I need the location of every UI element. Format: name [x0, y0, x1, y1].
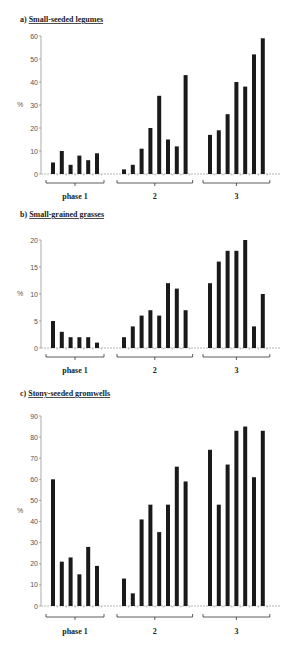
- bar: [157, 96, 161, 174]
- bar: [157, 316, 161, 348]
- y-tick-label: 10: [30, 148, 38, 155]
- y-tick-label: 15: [30, 264, 38, 271]
- bar: [261, 38, 265, 174]
- bar: [208, 450, 212, 606]
- chart-panel-c: c) Stony-seeded gromwells010203040506070…: [17, 389, 280, 636]
- bar: [60, 151, 64, 174]
- chart-title-prefix: b): [20, 210, 29, 219]
- bar: [140, 519, 144, 606]
- y-tick-label: 40: [30, 518, 38, 525]
- bar: [166, 283, 170, 348]
- bar: [122, 337, 126, 348]
- chart-title-text: Stony-seeded gromwells: [28, 389, 110, 398]
- y-tick-label: 10: [30, 291, 38, 298]
- group-brace: [203, 354, 270, 360]
- group-label: 2: [153, 192, 157, 201]
- group-brace: [117, 180, 193, 186]
- bar: [69, 337, 73, 348]
- bar: [184, 75, 188, 174]
- bar: [60, 332, 64, 348]
- bar: [243, 427, 247, 606]
- bar: [208, 135, 212, 174]
- y-tick-label: 5: [34, 318, 38, 325]
- group-brace: [46, 614, 104, 620]
- chart-title-text: Small-seeded legumes: [29, 15, 103, 24]
- bar: [217, 262, 221, 348]
- bar: [217, 505, 221, 606]
- group-label: phase 1: [62, 627, 88, 636]
- y-tick-label: 20: [30, 237, 38, 244]
- group-brace: [46, 354, 104, 360]
- y-tick-label: 50: [30, 497, 38, 504]
- bar: [166, 140, 170, 175]
- bar: [252, 326, 256, 348]
- group-brace: [203, 180, 270, 186]
- y-tick-label: 80: [30, 434, 38, 441]
- group-label: 3: [234, 192, 238, 201]
- y-tick-label: 10: [30, 581, 38, 588]
- bar: [243, 240, 247, 348]
- chart-title-text: Small-grained grasses: [29, 210, 104, 219]
- y-tick-label: 0: [34, 345, 38, 352]
- y-tick-label: 60: [30, 476, 38, 483]
- bar: [131, 165, 135, 174]
- y-tick-label: 20: [30, 125, 38, 132]
- bar: [86, 160, 90, 174]
- bar: [131, 326, 135, 348]
- y-tick-label: 0: [34, 603, 38, 610]
- bar: [175, 146, 179, 174]
- bar: [252, 54, 256, 174]
- chart-title-prefix: c): [20, 389, 28, 398]
- y-tick-label: 20: [30, 560, 38, 567]
- y-tick-label: 60: [30, 33, 38, 40]
- bar: [69, 165, 73, 174]
- bar: [77, 574, 81, 606]
- bar: [234, 251, 238, 348]
- y-tick-label: 70: [30, 455, 38, 462]
- y-tick-label: 30: [30, 102, 38, 109]
- y-axis-label: %: [17, 507, 23, 514]
- bar: [175, 289, 179, 348]
- bar: [226, 114, 230, 174]
- bar: [69, 557, 73, 606]
- group-brace: [117, 614, 193, 620]
- group-label: 3: [234, 627, 238, 636]
- bar: [226, 465, 230, 606]
- bar: [140, 316, 144, 348]
- group-label: 3: [234, 366, 238, 375]
- bar: [77, 156, 81, 174]
- group-label: 2: [153, 366, 157, 375]
- group-brace: [46, 180, 104, 186]
- bar: [122, 169, 126, 174]
- group-brace: [117, 354, 193, 360]
- bar: [51, 321, 55, 348]
- chart-title: b) Small-grained grasses: [20, 210, 104, 219]
- y-tick-label: 30: [30, 539, 38, 546]
- bar: [148, 310, 152, 348]
- bar: [95, 153, 99, 174]
- bar: [86, 547, 90, 606]
- chart-title-prefix: a): [20, 15, 29, 24]
- y-tick-label: 90: [30, 413, 38, 420]
- bar: [252, 477, 256, 606]
- chart-panel-b: b) Small-grained grasses05101520%phase 1…: [17, 210, 280, 375]
- bar: [131, 593, 135, 606]
- bar: [86, 337, 90, 348]
- bar: [184, 481, 188, 606]
- bar: [166, 505, 170, 606]
- bar: [95, 566, 99, 606]
- bar: [261, 431, 265, 606]
- bar: [77, 337, 81, 348]
- chart-title: c) Stony-seeded gromwells: [20, 389, 110, 398]
- y-tick-label: 50: [30, 56, 38, 63]
- bar: [51, 163, 55, 175]
- bar: [243, 87, 247, 174]
- bar: [148, 505, 152, 606]
- group-brace: [203, 614, 270, 620]
- bar: [184, 310, 188, 348]
- bar: [208, 283, 212, 348]
- y-axis-label: %: [17, 290, 23, 297]
- chart-panel-a: a) Small-seeded legumes0102030405060%pha…: [17, 15, 280, 201]
- y-tick-label: 0: [34, 171, 38, 178]
- bar: [95, 343, 99, 348]
